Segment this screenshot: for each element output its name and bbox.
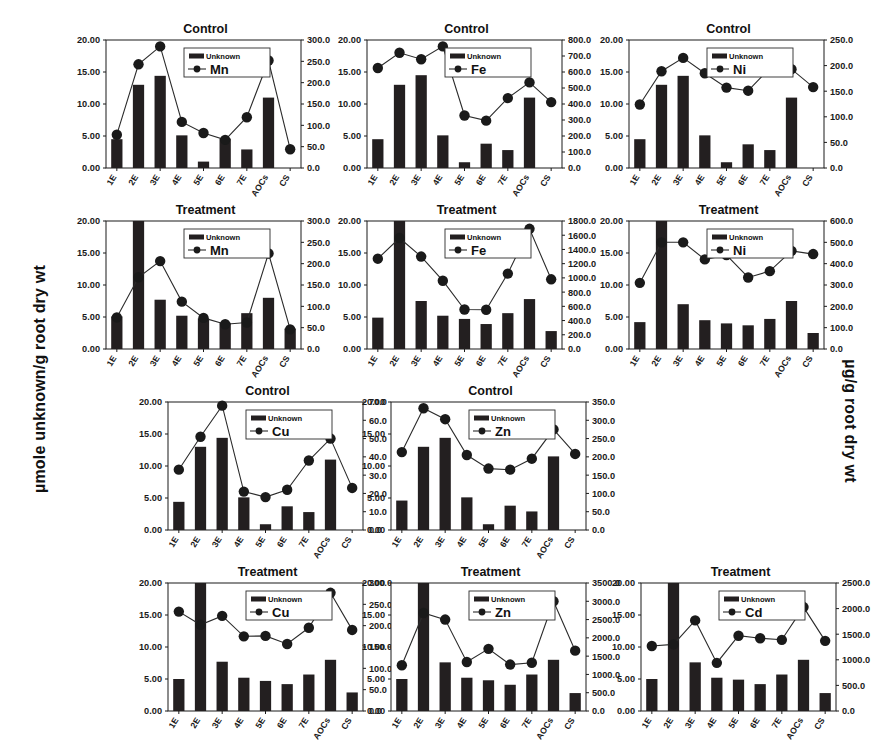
left-tick-label: 20.00	[612, 579, 635, 588]
data-point-marker	[712, 658, 722, 668]
x-axis-category-label: 2E	[188, 716, 202, 730]
data-point-marker	[483, 463, 493, 473]
legend-bar-swatch	[724, 597, 739, 602]
x-axis-category-label: 4E	[169, 354, 183, 368]
x-axis-category-label: AOCs	[311, 716, 332, 742]
right-tick-label: 400.0	[568, 316, 591, 326]
right-tick-label: 200.0	[830, 302, 853, 312]
legend-series-label: Cd	[745, 605, 762, 620]
data-point-marker	[462, 450, 472, 460]
bar	[808, 333, 819, 349]
data-point-marker	[217, 400, 227, 410]
chart-plot-zn-treatment: 0.005.0010.0015.0020.000.0500.01000.0150…	[351, 579, 630, 748]
x-axis-category-label: 3E	[433, 716, 447, 730]
x-axis-category-label: 3E	[409, 354, 423, 368]
right-tick-label: 150.0	[592, 471, 615, 481]
x-axis-category-label: AOCs	[311, 535, 332, 561]
left-tick-label: 10.00	[362, 642, 385, 652]
x-axis-category-label: 4E	[430, 354, 444, 368]
legend-series-label: Cu	[272, 424, 289, 439]
data-point-marker	[195, 620, 205, 630]
bar	[524, 98, 535, 168]
right-tick-label: 500.0	[830, 238, 853, 248]
data-point-marker	[155, 256, 165, 266]
left-tick-label: 10.00	[338, 280, 361, 290]
legend-bar-label: Unknown	[268, 414, 303, 423]
data-point-marker	[546, 274, 556, 284]
x-axis-category-label: 3E	[148, 354, 162, 368]
x-axis-category-label: 6E	[474, 354, 488, 368]
left-tick-label: 0.00	[144, 706, 162, 716]
left-tick-label: 15.00	[139, 429, 162, 439]
legend-bar-swatch	[474, 597, 489, 602]
legend-marker-sample	[256, 428, 263, 435]
x-axis-category-label: 5E	[191, 354, 205, 368]
x-axis-category-label: 3E	[210, 716, 224, 730]
bar	[502, 313, 513, 349]
left-tick-label: 15.00	[600, 67, 623, 77]
x-axis-category-label: 4E	[692, 173, 706, 187]
x-axis-category-label: 3E	[671, 354, 685, 368]
data-point-marker	[220, 319, 230, 329]
chart-title-cd-treatment: Treatment	[601, 565, 880, 579]
left-tick-label: 0.00	[367, 525, 385, 535]
x-axis-category-label: AOCs	[784, 716, 805, 742]
bar	[505, 685, 516, 711]
x-axis-category-label: 3E	[409, 173, 423, 187]
bar	[699, 320, 710, 349]
legend-series-label: Ni	[733, 243, 746, 258]
left-tick-label: 20.00	[139, 579, 162, 588]
x-axis-category-label: AOCs	[510, 354, 531, 380]
bar	[282, 506, 293, 530]
data-point-marker	[808, 249, 818, 259]
right-tick-label: 200.0	[830, 61, 853, 71]
data-point-marker	[174, 606, 184, 616]
bar	[217, 438, 228, 530]
data-point-marker	[440, 614, 450, 624]
bar	[798, 660, 809, 711]
x-axis-category-label: 5E	[253, 716, 267, 730]
left-tick-label: 0.00	[617, 706, 635, 716]
data-point-marker	[743, 85, 753, 95]
data-point-marker	[394, 233, 404, 243]
x-axis-category-label: 5E	[714, 173, 728, 187]
right-tick-label: 200.0	[568, 330, 591, 340]
legend-marker-sample	[256, 609, 263, 616]
right-tick-label: 600.0	[568, 302, 591, 312]
x-axis-category-label: 5E	[726, 716, 740, 730]
x-axis-category-label: 7E	[234, 173, 248, 187]
x-axis-category-label: 7E	[519, 535, 533, 549]
bar	[176, 135, 187, 168]
left-tick-label: 15.00	[77, 248, 100, 258]
bar	[733, 680, 744, 711]
chart-plot-fe-control: 0.005.0010.0015.0020.000.0100.0200.0300.…	[327, 36, 606, 208]
left-tick-label: 15.00	[139, 610, 162, 620]
x-axis-category-label: 5E	[191, 173, 205, 187]
right-tick-label: 800.0	[568, 288, 591, 298]
x-axis-category-label: 6E	[748, 716, 762, 730]
legend-bar-swatch	[450, 54, 465, 59]
bar	[133, 85, 144, 168]
right-tick-label: 50.0	[307, 323, 325, 333]
x-axis-category-label: 2E	[649, 354, 663, 368]
bar	[440, 438, 451, 530]
chart-panel-mn-treatment: Treatment0.005.0010.0015.0020.000.050.01…	[66, 203, 345, 391]
x-axis-category-label: 4E	[692, 354, 706, 368]
x-axis-category-label: 6E	[474, 173, 488, 187]
bar	[260, 524, 271, 530]
legend-bar-label: Unknown	[741, 595, 776, 604]
bar	[461, 497, 472, 530]
data-point-marker	[260, 631, 270, 641]
x-axis-category-label: AOCs	[249, 354, 270, 380]
legend-bar-label: Unknown	[206, 233, 241, 242]
data-point-marker	[481, 115, 491, 125]
left-tick-label: 20.00	[338, 217, 361, 226]
x-axis-category-label: 7E	[296, 716, 310, 730]
bar	[238, 497, 249, 530]
x-axis-category-label: 7E	[769, 716, 783, 730]
x-axis-category-label: 1E	[627, 173, 641, 187]
bar	[459, 162, 470, 168]
x-axis-category-label: 2E	[188, 535, 202, 549]
bar	[198, 162, 209, 168]
bar	[394, 85, 405, 168]
